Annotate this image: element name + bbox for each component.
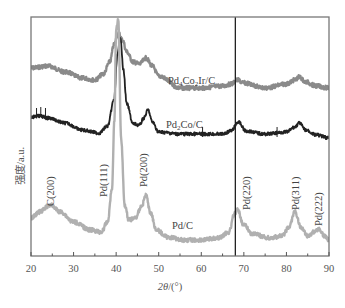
xrd-chart: 2030405060708090 Pd4Co2Ir/C Pd2Co/C Pd/C… — [0, 0, 345, 308]
x-tick-label: 60 — [196, 263, 207, 274]
x-axis-title: 2θ/(°) — [158, 281, 183, 293]
peak-label-pd200: Pd(200) — [138, 153, 150, 187]
x-axis-ticks: 2030405060708090 — [26, 252, 335, 274]
y-axis-title: 强度/a.u. — [14, 147, 26, 185]
x-tick-label: 70 — [239, 263, 250, 274]
peak-label-c200: C(200) — [45, 176, 57, 206]
peak-label-pd222: Pd(222) — [313, 192, 325, 226]
x-tick-label: 90 — [324, 263, 335, 274]
peak-label-pd111: Pd(111) — [98, 163, 110, 197]
peak-label-pd311: Pd(311) — [290, 176, 302, 210]
x-tick-label: 80 — [281, 263, 292, 274]
x-tick-label: 50 — [153, 263, 164, 274]
series-label-pd2co: Pd2Co/C — [166, 119, 203, 132]
series-label-pdc: Pd/C — [172, 220, 193, 231]
peak-label-pd220: Pd(220) — [241, 176, 253, 210]
x-tick-label: 40 — [111, 263, 122, 274]
x-tick-label: 20 — [26, 263, 37, 274]
x-tick-label: 30 — [68, 263, 79, 274]
